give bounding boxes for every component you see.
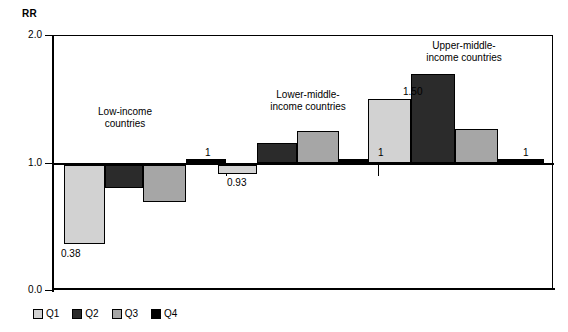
legend-swatch-q3 [112,309,122,319]
bar-low-q2 [105,165,143,188]
y-axis-title: RR [22,8,37,19]
group-label-upper-middle-income: Upper-middle- income countries [404,40,524,64]
legend-label-q1: Q1 [46,308,59,319]
legend-label-q2: Q2 [85,308,98,319]
group-label-low-income-line1: Low-income [98,106,152,117]
value-label-lowmid-q1: 0.93 [227,177,246,188]
legend-item-q2[interactable]: Q2 [72,308,98,319]
bar-uppmid-q1 [368,99,411,163]
legend-item-q1[interactable]: Q1 [33,308,59,319]
group-label-lower-middle-income-line2: income countries [270,101,346,112]
bars-layer [53,36,554,291]
y-tick-label-2: 2.0 [16,29,42,40]
group-label-low-income: Low-income countries [77,106,173,130]
value-label-low-q4: 1 [205,147,211,158]
legend-swatch-q4 [151,309,161,319]
group-label-upper-middle-income-line2: income countries [426,52,502,63]
value-label-lowmid-q4: 1 [378,147,384,158]
y-tick-mark-0 [45,290,52,291]
group-label-low-income-line2: countries [105,118,146,129]
legend-swatch-q1 [33,309,43,319]
bar-uppmid-q3 [455,129,498,163]
y-tick-label-1: 1.0 [16,157,42,168]
value-label-uppmid-q1: 1.50 [403,86,422,97]
legend-swatch-q2 [72,309,82,319]
y-tick-mark-1 [45,163,52,164]
plot-area [52,35,553,290]
group-separator-tick-lowmid [378,165,379,176]
group-label-upper-middle-income-line1: Upper-middle- [432,40,495,51]
bar-lowmid-q2 [257,143,297,163]
legend-label-q3: Q3 [125,308,138,319]
bar-low-q1 [64,165,105,244]
value-label-low-q1: 0.38 [61,248,80,259]
chart-screenshot: RR 2.0 1.0 0.0 Low-income countries Lowe… [0,0,568,332]
legend: Q1Q2Q3Q4 [33,308,177,319]
bar-low-q4 [186,159,226,163]
group-label-lower-middle-income: Lower-middle- income countries [248,89,368,113]
bar-low-q3 [143,165,186,202]
legend-item-q4[interactable]: Q4 [151,308,177,319]
bar-lowmid-q1 [218,165,257,174]
legend-label-q4: Q4 [164,308,177,319]
group-label-lower-middle-income-line1: Lower-middle- [276,89,339,100]
bar-uppmid-q4 [498,159,544,163]
value-label-uppmid-q4: 1 [523,147,529,158]
y-tick-mark-2 [45,35,52,36]
legend-item-q3[interactable]: Q3 [112,308,138,319]
y-tick-label-0: 0.0 [16,284,42,295]
bar-lowmid-q3 [297,131,339,163]
